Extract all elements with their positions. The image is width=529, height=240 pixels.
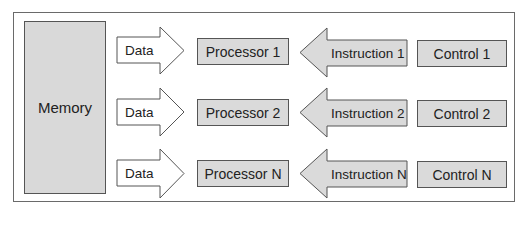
control-box-2: Control 2 [417,100,507,127]
processor-label: Processor 2 [206,105,281,121]
data-arrow-label: Data [125,26,154,75]
instruction-arrow-n: Instruction N [299,148,409,199]
control-label: Control N [432,167,491,183]
data-arrow-label: Data [125,148,154,199]
control-box-1: Control 1 [417,40,507,67]
instruction-arrow-1: Instruction 1 [299,27,409,78]
control-box-n: Control N [417,161,507,188]
processor-box-n: Processor N [197,160,289,187]
data-arrow-3: Data [116,148,186,199]
instruction-arrow-label: Instruction 2 [331,88,405,139]
instruction-arrow-label: Instruction N [331,149,407,200]
control-label: Control 2 [434,106,491,122]
memory-label: Memory [38,99,92,116]
data-arrow-2: Data [116,87,186,137]
control-label: Control 1 [434,46,491,62]
data-arrow-label: Data [125,87,154,137]
instruction-arrow-2: Instruction 2 [299,87,409,138]
processor-label: Processor N [204,166,281,182]
processor-label: Processor 1 [206,44,281,60]
memory-block: Memory [24,21,106,194]
processor-box-2: Processor 2 [197,99,289,126]
processor-box-1: Processor 1 [197,38,289,65]
data-arrow-1: Data [116,26,186,75]
instruction-arrow-label: Instruction 1 [331,28,405,79]
